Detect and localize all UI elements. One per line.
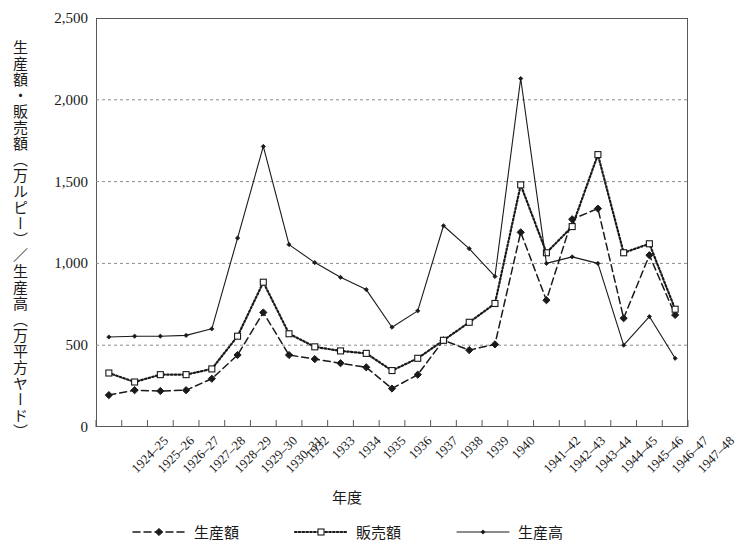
data-point (182, 387, 189, 394)
data-point (620, 315, 627, 322)
legend-key-open-square-icon (293, 525, 349, 539)
y-axis-tick-label: 1,000 (54, 255, 88, 272)
data-point (260, 309, 267, 316)
data-point (155, 528, 162, 535)
series-line (109, 155, 675, 382)
legend-item-3[interactable]: 生産高 (455, 521, 563, 542)
data-point (260, 279, 266, 285)
x-axis-tick-label: 1939 (483, 433, 513, 463)
legend-item-2[interactable]: 販売額 (293, 521, 401, 542)
legend-item-1[interactable]: 生産額 (131, 521, 239, 542)
data-point (570, 255, 574, 259)
plot-area (96, 18, 688, 427)
data-point (466, 319, 472, 325)
y-axis-tick-label: 1,500 (54, 173, 88, 190)
data-point (569, 224, 575, 230)
data-point (466, 347, 473, 354)
data-point (492, 300, 498, 306)
data-point (312, 344, 318, 350)
data-point (519, 76, 523, 80)
data-point (133, 334, 137, 338)
data-point (132, 379, 138, 385)
data-point (481, 529, 485, 533)
x-axis-tick-label: 1937 (431, 433, 461, 463)
data-point (105, 391, 112, 398)
legend-key-filled-diamond-icon (131, 525, 187, 539)
data-point (646, 252, 653, 259)
data-point (183, 372, 189, 378)
data-point (235, 333, 241, 339)
data-point (363, 350, 369, 356)
y-axis-tick-label: 2,000 (54, 91, 88, 108)
data-point (543, 297, 550, 304)
data-point (621, 250, 627, 256)
data-point (131, 387, 138, 394)
data-point (286, 331, 292, 337)
x-axis-tick-label: 1933 (328, 433, 358, 463)
data-point (544, 261, 548, 265)
series-2 (106, 152, 678, 385)
data-point (594, 205, 601, 212)
data-point (235, 236, 239, 240)
data-point (158, 334, 162, 338)
chart-legend: 生産額販売額生産高 (0, 521, 694, 542)
x-axis-tick-label: 1935 (380, 433, 410, 463)
data-point (517, 229, 524, 236)
data-point (261, 144, 265, 148)
series-line (109, 79, 675, 359)
data-point (285, 351, 292, 358)
legend-label: 販売額 (356, 521, 401, 542)
data-series-layer (96, 18, 688, 427)
data-point (518, 182, 524, 188)
data-point (184, 333, 188, 337)
data-point (210, 327, 214, 331)
data-point (491, 341, 498, 348)
data-point (440, 337, 446, 343)
data-point (389, 368, 395, 374)
x-axis-tick-label: 1934 (354, 433, 384, 463)
x-axis-tick-label: 1940 (509, 433, 539, 463)
data-point (157, 372, 163, 378)
data-point (415, 355, 421, 361)
data-point (338, 348, 344, 354)
x-axis-title: 年度 (0, 486, 694, 507)
data-point (337, 360, 344, 367)
x-axis-tick-label: 1938 (457, 433, 487, 463)
data-point (157, 387, 164, 394)
data-point (595, 152, 601, 158)
y-axis-tick-label: 500 (66, 337, 89, 354)
data-point (107, 335, 111, 339)
x-axis-tick-label: 1936 (406, 433, 436, 463)
series-3 (107, 76, 677, 360)
data-point (596, 261, 600, 265)
y-axis-tick-label: 2,500 (54, 10, 88, 27)
data-point (311, 356, 318, 363)
legend-label: 生産額 (194, 521, 239, 542)
data-point (106, 370, 112, 376)
legend-label: 生産高 (518, 521, 563, 542)
data-point (646, 241, 652, 247)
data-point (672, 306, 678, 312)
legend-key-small-filled-icon (455, 525, 511, 539)
data-point (318, 529, 324, 535)
data-point (209, 366, 215, 372)
y-axis-tick-label: 0 (81, 419, 89, 436)
y-axis-tick-labels: 2,5002,0001,5001,0005000 (0, 0, 96, 558)
